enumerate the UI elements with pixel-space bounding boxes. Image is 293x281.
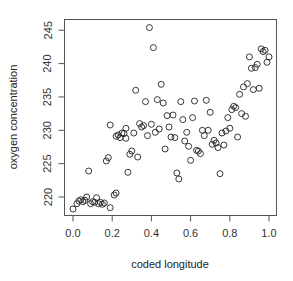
data-point (162, 146, 168, 152)
data-point (156, 126, 162, 132)
scatter-chart: 0.00.20.40.60.81.0 220225230235240245 co… (0, 0, 293, 281)
x-tick-label: 0.6 (183, 227, 198, 239)
data-point (207, 109, 213, 115)
data-point (170, 112, 176, 118)
data-point (180, 117, 186, 123)
data-point (70, 206, 76, 212)
data-point (150, 45, 156, 51)
data-point (205, 127, 211, 133)
data-point (250, 87, 256, 93)
data-point (203, 97, 209, 103)
x-tick-label: 0.8 (222, 227, 237, 239)
data-point (201, 133, 207, 139)
data-point (190, 115, 196, 121)
data-point (237, 91, 243, 97)
data-point (182, 138, 188, 144)
y-tick-label: 245 (42, 21, 54, 39)
data-point (160, 100, 166, 106)
data-point (266, 54, 272, 60)
data-point (131, 130, 137, 136)
data-point (154, 97, 160, 103)
x-tick-label: 0.4 (144, 227, 159, 239)
y-tick-label: 225 (42, 154, 54, 172)
data-point (164, 113, 170, 119)
data-point (123, 125, 129, 131)
y-tick-label: 220 (42, 188, 54, 206)
data-point (158, 81, 164, 87)
data-point (133, 87, 139, 93)
data-point (221, 142, 227, 148)
data-point (152, 129, 158, 135)
data-point (178, 99, 184, 105)
data-point (244, 81, 250, 87)
y-tick-label: 235 (42, 88, 54, 106)
data-point (166, 124, 172, 130)
data-points (70, 25, 272, 212)
data-point (262, 47, 268, 53)
data-point (145, 133, 151, 139)
data-point (148, 121, 154, 127)
data-point (86, 168, 92, 174)
data-point (146, 25, 152, 31)
data-point (101, 200, 107, 206)
x-tick-label: 1.0 (261, 227, 276, 239)
x-tick-label: 0.2 (105, 227, 120, 239)
y-tick-label: 240 (42, 54, 54, 72)
data-point (192, 98, 198, 104)
data-point (241, 84, 247, 90)
data-point (186, 143, 192, 149)
x-axis: 0.00.20.40.60.81.0 (65, 216, 276, 239)
data-point (184, 129, 190, 135)
data-point (135, 154, 141, 160)
data-point (107, 122, 113, 128)
x-tick-label: 0.0 (65, 227, 80, 239)
data-point (176, 176, 182, 182)
data-point (217, 171, 223, 177)
data-point (235, 134, 241, 140)
data-point (107, 205, 113, 211)
y-tick-label: 230 (42, 121, 54, 139)
y-axis-title: oxygen concentration (7, 65, 19, 170)
data-point (174, 170, 180, 176)
data-point (225, 115, 231, 121)
data-point (256, 85, 262, 91)
y-axis: 220225230235240245 (42, 21, 65, 206)
x-axis-title: coded longitude (131, 258, 209, 270)
data-point (143, 99, 149, 105)
data-point (172, 135, 178, 141)
data-point (125, 169, 131, 175)
data-point (188, 157, 194, 163)
data-point (246, 54, 252, 60)
plot-frame (65, 20, 277, 216)
